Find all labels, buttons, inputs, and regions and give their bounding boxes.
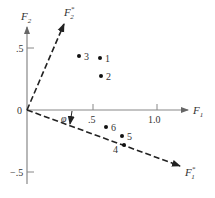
x-tick-label-1.0: 1.0	[148, 114, 161, 125]
svg-text:3: 3	[84, 51, 89, 62]
svg-text:5: 5	[127, 131, 132, 142]
f2-star-label: F*2	[63, 5, 75, 21]
x-tick-label-0.5: .5	[88, 114, 96, 125]
factor-plot: F2 F1 0 .5 1.0 .5 −.5 F*2 F*1 φ 3 1 2 6 …	[0, 0, 215, 198]
angle-phi-label: φ	[61, 113, 67, 124]
point-3: 3	[77, 51, 89, 62]
point-4: 4	[113, 143, 126, 155]
svg-text:4: 4	[113, 144, 118, 155]
y-tick-label-0.5: .5	[16, 43, 24, 54]
svg-text:2: 2	[106, 71, 111, 82]
point-2: 2	[99, 71, 111, 82]
f1-star-label: F*1	[184, 165, 196, 181]
point-5: 5	[120, 131, 132, 142]
svg-text:1: 1	[105, 53, 110, 64]
y-tick-label-neg-0.5: −.5	[10, 167, 23, 178]
point-1: 1	[98, 53, 110, 64]
svg-text:6: 6	[111, 122, 116, 133]
origin-label: 0	[17, 105, 22, 116]
f2-star-axis	[27, 24, 64, 110]
angle-phi-arrow	[70, 111, 72, 124]
f1-axis-label: F1	[192, 104, 203, 119]
point-6: 6	[104, 122, 116, 133]
f2-axis-label: F2	[20, 10, 32, 25]
